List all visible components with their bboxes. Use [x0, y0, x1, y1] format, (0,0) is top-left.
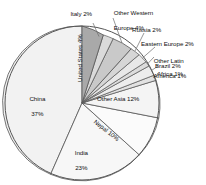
- slice-label-italy: Italy 2%: [52, 10, 92, 17]
- slice-label-brazil: Brazil 2%: [155, 62, 181, 69]
- slice-label-india-value: 23%: [75, 164, 87, 171]
- slice-label-eastern-europe: Eastern Europe 2%: [141, 40, 194, 47]
- slice-label-other-western-europe-l1: Other Western: [114, 9, 153, 16]
- slice-label-united-states: United States 4%: [76, 34, 83, 82]
- slice-label-china-name: China: [29, 95, 45, 102]
- slice-label-other-asia: Other Asia 12%: [97, 95, 139, 102]
- slice-label-china: China 37%: [14, 88, 54, 124]
- slice-label-india: India 23%: [58, 142, 98, 178]
- pie-chart-figure: China 37% India 23% Nepal 10% Other Asia…: [0, 0, 206, 185]
- slice-label-africa: Africa 1%: [157, 70, 183, 77]
- slice-label-india-name: India: [75, 149, 88, 156]
- slice-label-russia: Russia 2%: [132, 26, 161, 33]
- slice-label-china-value: 37%: [31, 110, 43, 117]
